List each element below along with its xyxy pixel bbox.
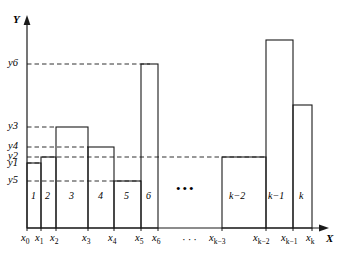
x-tick-label-xk: xk bbox=[306, 233, 314, 246]
bar-label-1: 1 bbox=[31, 191, 36, 201]
bars-left-group bbox=[27, 64, 158, 228]
bar-label-k: k bbox=[299, 191, 303, 201]
bar-3 bbox=[56, 127, 88, 228]
x-tick-sub: 2 bbox=[55, 237, 59, 246]
y-tick-label-y1: y1 bbox=[8, 158, 18, 169]
y-tick-label-y3: y3 bbox=[8, 121, 18, 132]
bar-label-k-minus-2: k−2 bbox=[229, 191, 245, 201]
bar-label-6: 6 bbox=[146, 191, 151, 201]
x-tick-sub: 6 bbox=[157, 237, 161, 246]
dashed-guides bbox=[27, 64, 266, 181]
y-tick-label-y5: y5 bbox=[8, 175, 18, 186]
x-tick-label-x6: x6 bbox=[152, 233, 160, 246]
x-tick-label-x1: x1 bbox=[35, 233, 43, 246]
x-tick-sub: k bbox=[311, 237, 315, 246]
y-tick-label-y6: y6 bbox=[8, 58, 18, 69]
x-tick-sub: 3 bbox=[87, 237, 91, 246]
ellipsis-axis: ··· bbox=[182, 234, 199, 245]
x-tick-label-x5: x5 bbox=[135, 233, 143, 246]
bar-4 bbox=[88, 147, 114, 228]
ellipsis-mid: ••• bbox=[176, 182, 196, 195]
x-axis-label: X bbox=[326, 233, 333, 244]
bar-label-4: 4 bbox=[98, 191, 103, 201]
x-tick-sub: 0 bbox=[26, 237, 30, 246]
histogram-svg bbox=[0, 0, 339, 253]
x-tick-label-x4: x4 bbox=[108, 233, 116, 246]
x-tick-label-xk-1: xk−1 bbox=[281, 233, 297, 246]
bar-label-5: 5 bbox=[124, 191, 129, 201]
x-tick-sub: k−3 bbox=[214, 237, 226, 246]
histogram-figure: Y X y6 y3 y4 y2 y1 y5 x0 x1 x2 x3 x4 x5 … bbox=[0, 0, 339, 253]
x-tick-label-xk-2: xk−2 bbox=[253, 233, 269, 246]
y-axis-label: Y bbox=[13, 14, 20, 25]
x-tick-sub: 5 bbox=[140, 237, 144, 246]
x-tick-sub: k−2 bbox=[258, 237, 270, 246]
x-tick-sub: k−1 bbox=[286, 237, 298, 246]
x-tick-sub: 1 bbox=[40, 237, 44, 246]
bar-label-k-minus-1: k−1 bbox=[268, 191, 284, 201]
x-tick-label-x0: x0 bbox=[21, 233, 29, 246]
bar-5 bbox=[114, 181, 141, 228]
bar-6 bbox=[141, 64, 158, 228]
x-tick-label-x3: x3 bbox=[82, 233, 90, 246]
x-tick-label-xk-3: xk−3 bbox=[209, 233, 225, 246]
x-tick-label-x2: x2 bbox=[50, 233, 58, 246]
bar-label-2: 2 bbox=[45, 191, 50, 201]
bar-label-3: 3 bbox=[69, 191, 74, 201]
x-tick-sub: 4 bbox=[113, 237, 117, 246]
bar-k bbox=[293, 105, 312, 228]
